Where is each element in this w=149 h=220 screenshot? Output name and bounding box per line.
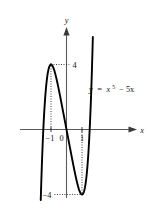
figure-container: y x 4 −4 −1 0 1 y = x 5 − 5x — [0, 0, 149, 220]
x-tick-label-0: 0 — [59, 134, 63, 143]
function-curve — [41, 65, 51, 201]
equation-equals: = — [97, 85, 102, 94]
y-axis-arrowhead — [63, 27, 69, 36]
curve-group — [41, 65, 51, 201]
axes-group — [20, 27, 137, 198]
y-tick-label-minus-4: −4 — [43, 191, 53, 200]
equation-rest: − 5x — [119, 85, 135, 94]
x-tick-label-1: 1 — [80, 134, 84, 143]
y-axis-label: y — [64, 16, 69, 25]
graph-canvas: y x 4 −4 −1 0 1 y = x 5 − 5x — [0, 0, 149, 220]
y-tick-label-4: 4 — [73, 61, 78, 70]
equation-exponent: 5 — [112, 84, 115, 90]
equation-label: y = x 5 − 5x — [88, 82, 135, 94]
x-tick-label-minus-1: −1 — [46, 134, 55, 143]
x-axis-arrowhead — [129, 126, 138, 132]
x-axis-label: x — [139, 126, 144, 135]
equation-base: x — [106, 85, 111, 94]
equation-lhs: y — [88, 85, 93, 94]
